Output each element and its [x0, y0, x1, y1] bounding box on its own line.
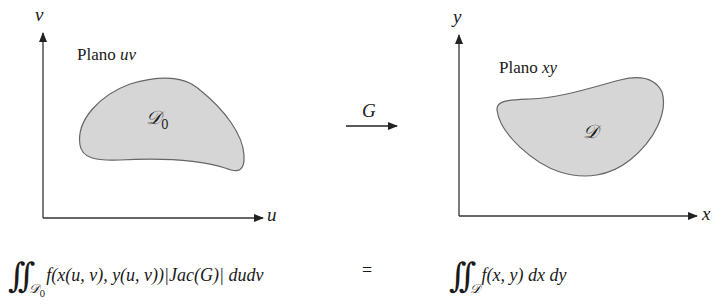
plane-label-prefix: Plano [499, 58, 542, 77]
region-d0-subscript: 0 [161, 118, 169, 132]
y-axis-label: y [453, 6, 461, 28]
uv-plane-label: Plano uv [77, 45, 136, 65]
left-integrand: f(x(u, v), y(u, v))|Jac(G)| dudv [46, 265, 263, 285]
x-axis-label: x [702, 203, 710, 225]
right-integral-expression: ∫∫𝒟f(x, y) dx dy [449, 255, 566, 295]
region-d-shape [497, 78, 664, 176]
region-d-label: 𝒟 [583, 120, 598, 143]
u-axis-label: u [267, 204, 277, 226]
equals-sign: = [362, 260, 372, 281]
plane-label-var: uv [120, 45, 136, 64]
region-d0-symbol: 𝒟 [146, 106, 161, 128]
xy-plane-label: Plano xy [499, 58, 557, 78]
double-integral-symbol: ∫∫ [8, 255, 27, 295]
plane-label-prefix: Plano [77, 45, 120, 64]
double-integral-symbol: ∫∫ [449, 255, 468, 295]
mapping-label: G [362, 100, 376, 122]
integral-domain: 𝒟 [470, 281, 480, 296]
v-axis-label: v [35, 4, 43, 26]
right-integrand: f(x, y) dx dy [481, 265, 566, 285]
region-d0-label: 𝒟0 [146, 106, 169, 132]
left-integral-expression: ∫∫𝒟0f(x(u, v), y(u, v))|Jac(G)| dudv [8, 255, 263, 295]
integral-domain: 𝒟0 [29, 281, 45, 296]
plane-label-var: xy [542, 58, 557, 77]
